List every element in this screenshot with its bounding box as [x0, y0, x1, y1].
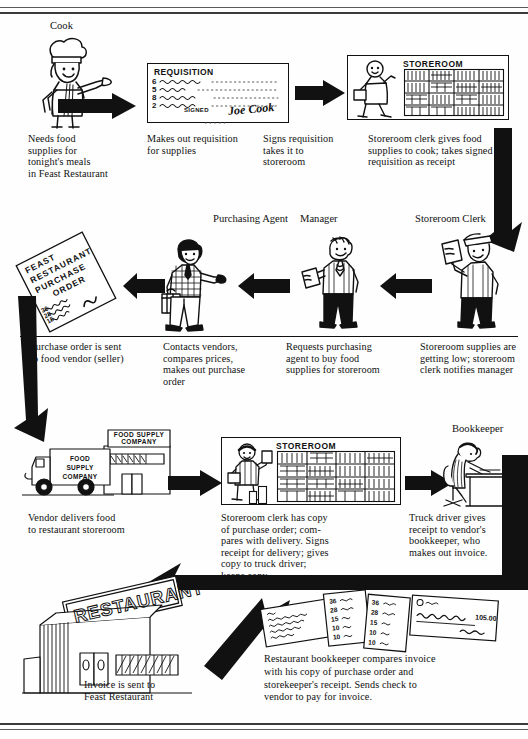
- arrow-requisition-to-storeroom: [295, 80, 345, 106]
- caption-contacts-vendors: Contacts vendors, compares prices, makes…: [163, 341, 288, 387]
- svg-text:COMPANY: COMPANY: [121, 438, 157, 445]
- svg-text:10: 10: [333, 633, 341, 641]
- svg-text:10: 10: [332, 624, 340, 632]
- delivery-truck: FOOD SUPPLY COMPANY: [22, 447, 114, 499]
- caption-cook: Needs food supplies for tonight's meals …: [28, 133, 148, 179]
- svg-text:15: 15: [370, 619, 378, 627]
- storeroom-clerk-figure: [440, 228, 516, 332]
- svg-text:28: 28: [330, 606, 338, 614]
- requisition-dots: [205, 111, 227, 129]
- role-label-cook: Cook: [50, 20, 73, 32]
- requisition-title: REQUISITION: [154, 67, 214, 77]
- caption-signs-requisition: Signs requisition takes it to storeroom: [263, 133, 368, 168]
- svg-text:SUPPLY: SUPPLY: [66, 464, 94, 471]
- storeroom-clerk-walking-figure: [353, 60, 401, 118]
- svg-text:2: 2: [152, 101, 157, 110]
- arrow-agent-to-purchase-order: [123, 273, 165, 299]
- svg-text:28: 28: [371, 609, 379, 617]
- caption-requests-purchasing: Requests purchasing agent to buy food su…: [286, 341, 421, 376]
- role-label-storeroom-clerk: Storeroom Clerk: [415, 213, 486, 225]
- caption-invoice-sent: Invoice is sent to Feast Restaurant: [84, 679, 224, 704]
- storeroom-shelves-top: [404, 69, 504, 116]
- caption-restaurant-bookkeeper: Restaurant bookkeeper compares invoice w…: [264, 653, 526, 704]
- document-check: 105.00: [405, 592, 503, 646]
- svg-text:COMPANY: COMPANY: [63, 473, 98, 480]
- role-label-purchasing-agent: Purchasing Agent: [213, 213, 288, 225]
- caption-supplies-low: Storeroom supplies are getting low; stor…: [420, 341, 528, 376]
- manager-figure: [300, 232, 376, 332]
- arrow-down-left-row2: [14, 296, 64, 448]
- svg-text:FOOD: FOOD: [70, 455, 90, 462]
- arrow-clerk-to-manager: [380, 273, 432, 299]
- svg-text:15: 15: [331, 615, 339, 623]
- role-label-manager: Manager: [300, 213, 338, 225]
- arrow-bookkeeper-to-restaurant: [145, 455, 528, 595]
- check-amount-text: 105.00: [475, 613, 497, 621]
- svg-text:10: 10: [369, 628, 377, 636]
- caption-requisition: Makes out requisition for supplies: [147, 133, 267, 156]
- svg-text:36: 36: [329, 597, 337, 605]
- storeroom-label-top: STOREROOM: [403, 59, 463, 69]
- arrow-manager-to-agent: [238, 273, 290, 299]
- arrow-cook-to-requisition: [58, 93, 136, 119]
- role-label-bookkeeper: Bookkeeper: [452, 423, 503, 435]
- purchasing-agent-figure: [160, 235, 236, 333]
- top-rule-thick: [0, 12, 528, 14]
- bottom-rule-thin: [0, 729, 528, 730]
- svg-text:36: 36: [371, 599, 379, 607]
- flowchart-page: Cook: [0, 0, 528, 739]
- ground-line-row2: [20, 336, 518, 337]
- storeroom-label-bottom: STOREROOM: [276, 441, 336, 451]
- top-rule-thin: [0, 7, 528, 8]
- bottom-rule-thick: [0, 723, 528, 725]
- svg-text:FOOD SUPPLY: FOOD SUPPLY: [114, 431, 165, 438]
- svg-text:10: 10: [368, 638, 376, 646]
